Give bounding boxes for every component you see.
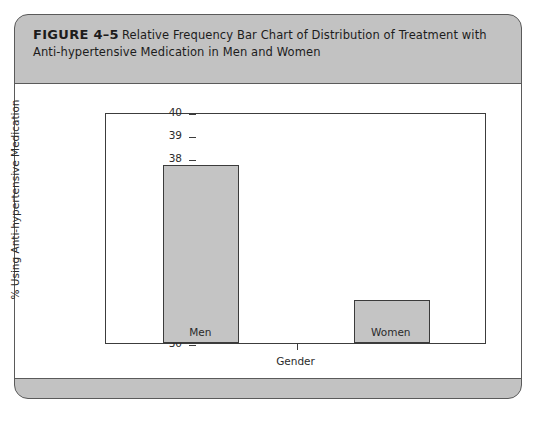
y-axis-title: % Using Anti-hypertensive Medication bbox=[9, 84, 23, 315]
y-tick-label: 40 bbox=[169, 106, 182, 118]
y-tick-mark bbox=[189, 137, 196, 138]
x-axis-title: Gender bbox=[105, 355, 486, 367]
x-tick-label-men: Men bbox=[105, 326, 296, 338]
y-tick-mark bbox=[189, 160, 196, 161]
bar-men bbox=[163, 165, 239, 343]
y-tick-label: 38 bbox=[169, 152, 182, 164]
y-tick-mark bbox=[189, 114, 196, 115]
figure-number: FIGURE 4–5 bbox=[33, 27, 119, 42]
plot-frame: 4039383736353433323130 bbox=[105, 113, 486, 344]
figure-caption: FIGURE 4–5Relative Frequency Bar Chart o… bbox=[33, 27, 503, 60]
x-tick-mark bbox=[297, 343, 298, 350]
y-tick-mark bbox=[189, 345, 196, 346]
y-tick-label: 39 bbox=[169, 129, 182, 141]
x-tick-label-women: Women bbox=[296, 326, 487, 338]
figure-panel: FIGURE 4–5Relative Frequency Bar Chart o… bbox=[14, 14, 522, 399]
chart-area: % Using Anti-hypertensive Medication 403… bbox=[15, 83, 521, 379]
